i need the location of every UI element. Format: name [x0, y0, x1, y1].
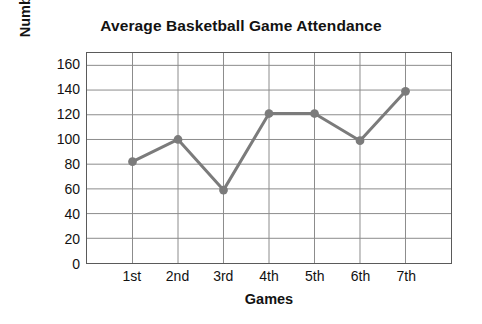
data-point-marker [310, 109, 319, 118]
x-tick-label: 7th [378, 268, 434, 284]
y-axis-tick-labels: 020406080100120140160 [32, 52, 80, 264]
y-tick-label: 100 [34, 132, 80, 146]
y-tick-label: 20 [34, 232, 80, 246]
y-tick-label: 60 [34, 182, 80, 196]
series-line [133, 91, 406, 190]
chart-title: Average Basketball Game Attendance [0, 17, 482, 35]
y-tick-label: 0 [34, 257, 80, 271]
data-point-marker [265, 109, 274, 118]
line-series [87, 53, 451, 263]
data-point-marker [356, 136, 365, 145]
data-point-marker [219, 186, 228, 195]
y-tick-label: 120 [34, 107, 80, 121]
y-tick-label: 140 [34, 82, 80, 96]
y-tick-label: 40 [34, 207, 80, 221]
data-point-marker [128, 157, 137, 166]
chart-container: Average Basketball Game Attendance Numbe… [0, 0, 482, 324]
y-tick-label: 80 [34, 157, 80, 171]
x-axis-tick-labels: 1st2nd3rd4th5th6th7th [86, 268, 452, 288]
plot-area [86, 52, 452, 264]
x-axis-title: Games [86, 291, 452, 307]
data-point-marker [401, 87, 410, 96]
y-tick-label: 160 [34, 57, 80, 71]
data-point-marker [174, 135, 183, 144]
